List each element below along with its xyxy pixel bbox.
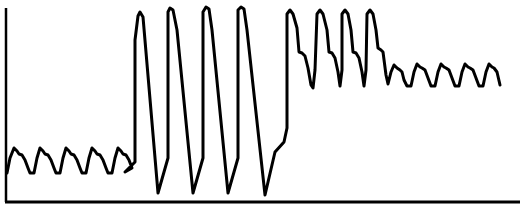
pressure-waveform-trace <box>7 7 500 195</box>
waveform-chart <box>0 0 520 206</box>
waveform-svg <box>0 0 520 206</box>
